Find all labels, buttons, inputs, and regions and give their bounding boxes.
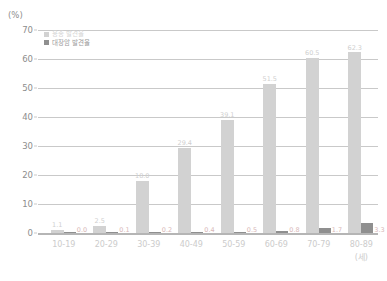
bar-group: 1.10.010-19 [51, 30, 74, 233]
bar-value-label: 51.5 [263, 76, 277, 83]
bar-group: 29.40.440-49 [178, 30, 201, 233]
legend-swatch-icon [44, 32, 49, 37]
bar-series-1: 39.1 [221, 120, 234, 233]
bar-value-label: 0.1 [119, 227, 129, 234]
y-axis-tick-label: 0 [28, 228, 33, 238]
x-axis-tick-label: 20-29 [95, 240, 118, 249]
y-axis-tick-label: 60 [22, 54, 33, 64]
plot-area: 010203040506070 1.10.010-192.50.120-2918… [38, 30, 378, 233]
bar-group: 62.33.380-89(세) [348, 30, 371, 233]
x-axis-tick-label: 80-89(세) [350, 240, 373, 262]
y-axis-tick-label: 20 [22, 170, 33, 180]
y-axis-tick-label: 70 [22, 25, 33, 35]
bar-series-1: 18.0 [136, 181, 149, 233]
y-axis-tick-mark [34, 204, 37, 205]
y-axis-tick-label: 30 [22, 141, 33, 151]
bar-value-label: 60.5 [305, 50, 319, 57]
y-axis-tick-label: 40 [22, 112, 33, 122]
legend-item-series-2: 대장암 발견율 [44, 40, 90, 47]
bars-layer: 1.10.010-192.50.120-2918.00.230-3929.40.… [38, 30, 378, 233]
x-axis-tick-label: 10-19 [52, 240, 75, 249]
y-axis-tick-label: 50 [22, 83, 33, 93]
y-axis-tick-mark [34, 30, 37, 31]
bar-series-2: 0.2 [149, 232, 161, 234]
y-axis-tick-mark [34, 175, 37, 176]
bar-value-label: 29.4 [178, 140, 192, 147]
y-axis-tick-mark [34, 88, 37, 89]
bar-series-2: 0.8 [276, 231, 288, 233]
bar-series-1: 1.1 [51, 230, 64, 233]
y-axis-tick-mark [34, 233, 37, 234]
bar-series-1: 2.5 [93, 226, 106, 233]
bar-value-label: 1.1 [52, 222, 62, 229]
bar-series-1: 29.4 [178, 148, 191, 233]
x-axis-tick-label: 60-69 [265, 240, 288, 249]
bar-series-2: 0.4 [191, 232, 203, 234]
bar-series-1: 62.3 [348, 52, 361, 233]
bar-series-1: 51.5 [263, 84, 276, 233]
legend-swatch-icon [44, 40, 49, 45]
bar-group: 60.51.770-79 [306, 30, 329, 233]
bar-value-label: 1.7 [332, 227, 342, 234]
legend-label: 대장암 발견율 [52, 40, 90, 47]
x-axis-tick-label: 40-49 [180, 240, 203, 249]
legend-label: 용종 발견율 [52, 31, 84, 38]
bar-series-2: 3.3 [361, 223, 373, 233]
x-axis-unit-label: (세) [350, 251, 373, 262]
bar-series-2: 0.5 [234, 232, 246, 234]
bar-value-label: 18.0 [135, 173, 149, 180]
y-axis-tick-mark [34, 59, 37, 60]
bar-group: 51.50.860-69 [263, 30, 286, 233]
bar-chart: (%) 010203040506070 1.10.010-192.50.120-… [0, 0, 387, 281]
bar-value-label: 62.3 [348, 45, 362, 52]
bar-value-label: 39.1 [220, 112, 234, 119]
chart-legend: 용종 발견율 대장암 발견율 [44, 31, 90, 48]
bar-value-label: 0.4 [204, 227, 214, 234]
bar-value-label: 0.5 [247, 227, 257, 234]
y-axis-tick-mark [34, 146, 37, 147]
x-axis-tick-label: 50-59 [222, 240, 245, 249]
bar-value-label: 0.8 [289, 227, 299, 234]
legend-item-series-1: 용종 발견율 [44, 31, 90, 38]
y-axis-unit-label: (%) [8, 10, 23, 20]
bar-value-label: 0.2 [162, 227, 172, 234]
y-axis-tick-label: 10 [22, 199, 33, 209]
bar-group: 2.50.120-29 [93, 30, 116, 233]
bar-group: 18.00.230-39 [136, 30, 159, 233]
bar-group: 39.10.550-59 [221, 30, 244, 233]
bar-series-2: 0.0 [64, 232, 76, 234]
bar-series-1: 60.5 [306, 58, 319, 233]
bar-value-label: 3.3 [374, 227, 384, 234]
bar-series-2: 1.7 [319, 228, 331, 233]
bar-value-label: 2.5 [95, 218, 105, 225]
y-axis-tick-mark [34, 117, 37, 118]
bar-value-label: 0.0 [77, 227, 87, 234]
x-axis-tick-label: 30-39 [137, 240, 160, 249]
bar-series-2: 0.1 [106, 232, 118, 234]
x-axis-tick-label: 70-79 [307, 240, 330, 249]
